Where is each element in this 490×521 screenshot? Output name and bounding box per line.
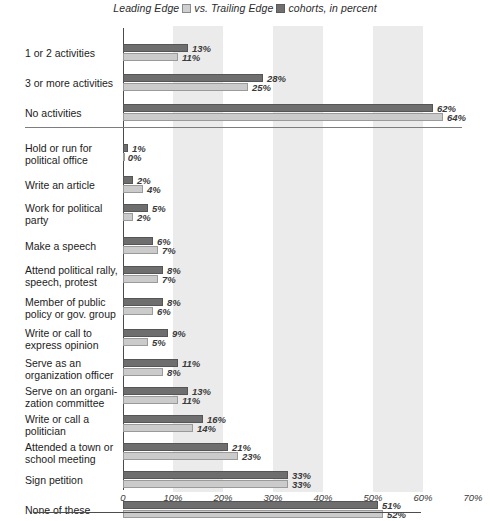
leading-edge-swatch-icon [182, 4, 191, 13]
row-label-line: Attend political rally, [25, 264, 121, 276]
row-label: Attend political rally,speech, protest [25, 264, 121, 288]
row-label: Sign petition [25, 474, 121, 486]
x-tick-label: 60% [413, 492, 432, 503]
value-label-leading-edge: 23% [242, 452, 261, 461]
chart-row: Attended a town orschool meeting21%23% [0, 443, 490, 465]
bar-trailing-edge [123, 471, 288, 479]
row-label-line: Attended a town or [25, 441, 121, 453]
row-label-line: Write or call to [25, 327, 121, 339]
row-label: 3 or more activities [25, 77, 121, 89]
bar-trailing-edge [123, 176, 133, 184]
bar-trailing-edge [123, 329, 168, 337]
bar-leading-edge [123, 452, 238, 460]
row-label: Write or call toexpress opinion [25, 327, 121, 351]
chart-row: Attend political rally,speech, protest8%… [0, 266, 490, 288]
chart-row: Work for politicalparty5%2% [0, 204, 490, 226]
x-tick-label: 0 [120, 492, 125, 503]
row-label: Serve as anorganization officer [25, 357, 121, 381]
chart-legend: Leading Edgevs. Trailing Edgecohorts, in… [0, 2, 490, 14]
bar-leading-edge [123, 368, 163, 376]
value-label-leading-edge: 33% [292, 480, 311, 489]
row-label: Attended a town orschool meeting [25, 441, 121, 465]
value-label-leading-edge: 0% [128, 153, 142, 162]
row-label-line: party [25, 214, 121, 226]
row-label-line: politician [25, 425, 121, 437]
value-label-leading-edge: 2% [137, 213, 151, 222]
bar-leading-edge [123, 396, 178, 404]
bar-trailing-edge [123, 387, 188, 395]
value-label-trailing-edge: 5% [152, 204, 166, 213]
row-label-line: Sign petition [25, 474, 121, 486]
row-label: Write or call apolitician [25, 413, 121, 437]
value-label-leading-edge: 4% [147, 185, 161, 194]
chart-row: No activities62%64% [0, 104, 490, 126]
row-label: Member of publicpolicy or gov. group [25, 296, 121, 320]
bar-leading-edge [123, 338, 148, 346]
bar-trailing-edge [123, 204, 148, 212]
x-tick-label: 20% [213, 492, 232, 503]
row-label: No activities [25, 107, 121, 119]
row-label-line: 1 or 2 activities [25, 47, 121, 59]
row-label: 1 or 2 activities [25, 47, 121, 59]
row-label-line: Write an article [25, 179, 121, 191]
row-label: Hold or run forpolitical office [25, 142, 121, 166]
row-label-line: Serve on an organi- [25, 385, 121, 397]
chart-row: 3 or more activities28%25% [0, 74, 490, 96]
chart-row: Hold or run forpolitical office1%0% [0, 144, 490, 166]
chart-row: Member of publicpolicy or gov. group8%6% [0, 298, 490, 320]
bar-trailing-edge [123, 443, 228, 451]
bar-trailing-edge [123, 298, 163, 306]
bar-leading-edge [123, 246, 158, 254]
x-tick-label: 40% [313, 492, 332, 503]
row-label-line: Serve as an [25, 357, 121, 369]
value-label-leading-edge: 6% [157, 307, 171, 316]
bar-leading-edge [123, 53, 178, 61]
bar-trailing-edge [123, 104, 433, 112]
x-tick-label: 50% [363, 492, 382, 503]
legend-label-suffix: cohorts, in percent [288, 2, 376, 14]
row-label-line: zation committee [25, 397, 121, 409]
value-label-trailing-edge: 11% [182, 359, 200, 368]
bar-leading-edge [123, 424, 193, 432]
value-label-leading-edge: 64% [447, 113, 466, 122]
row-label-line: Hold or run for [25, 142, 121, 154]
row-label-line: speech, protest [25, 276, 121, 288]
value-label-leading-edge: 7% [162, 275, 176, 284]
chart-row: Write or call apolitician16%14% [0, 415, 490, 437]
row-label-line: express opinion [25, 339, 121, 351]
x-tick-label: 70% [463, 492, 482, 503]
bottom-rule [33, 512, 421, 513]
row-label-line: organization officer [25, 369, 121, 381]
row-label: Work for politicalparty [25, 202, 121, 226]
x-axis-ticks: 010%20%30%40%50%60%70% [0, 492, 490, 508]
bar-leading-edge [123, 307, 153, 315]
row-label-line: Work for political [25, 202, 121, 214]
trailing-edge-swatch-icon [276, 4, 285, 13]
chart-figure: Leading Edgevs. Trailing Edgecohorts, in… [0, 0, 490, 521]
bar-trailing-edge [123, 237, 153, 245]
bar-leading-edge [123, 275, 158, 283]
row-label-line: political office [25, 154, 121, 166]
value-label-leading-edge: 11% [182, 396, 200, 405]
row-label-line: Make a speech [25, 240, 121, 252]
bar-leading-edge [123, 83, 248, 91]
chart-row: Write or call toexpress opinion9%5% [0, 329, 490, 351]
bar-trailing-edge [123, 144, 128, 152]
value-label-trailing-edge: 9% [172, 329, 186, 338]
group-separator-rule [25, 127, 462, 128]
row-label: Write an article [25, 179, 121, 191]
legend-label-leading-edge: Leading Edge [113, 2, 179, 14]
value-label-leading-edge: 25% [252, 83, 271, 92]
row-label-line: 3 or more activities [25, 77, 121, 89]
plot-area: 1 or 2 activities13%11%3 or more activit… [0, 26, 490, 492]
bar-trailing-edge [123, 74, 263, 82]
legend-label-vs-trailing-edge: vs. Trailing Edge [194, 2, 273, 14]
row-label-line: school meeting [25, 453, 121, 465]
value-label-leading-edge: 5% [152, 338, 166, 347]
bar-trailing-edge [123, 266, 163, 274]
value-label-leading-edge: 7% [162, 246, 176, 255]
bar-trailing-edge [123, 44, 188, 52]
value-label-leading-edge: 14% [197, 424, 216, 433]
bar-trailing-edge [123, 415, 203, 423]
bar-leading-edge [123, 185, 143, 193]
